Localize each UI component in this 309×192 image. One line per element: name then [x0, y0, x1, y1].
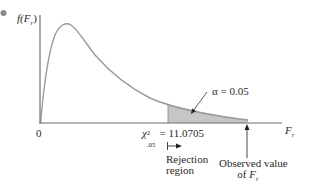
- origin-label: 0: [36, 127, 42, 139]
- observed-label-line2: of Fr: [219, 169, 277, 180]
- observed-arrow-up-icon: [245, 124, 250, 130]
- y-axis-label-close: ): [33, 12, 37, 24]
- density-curve: [41, 24, 249, 123]
- alpha-label: α = 0.05: [212, 85, 249, 97]
- y-axis-label: f(Fr): [17, 12, 37, 24]
- observed-label-sub: r: [256, 175, 259, 183]
- observed-label-var: F: [249, 168, 256, 180]
- rejection-region-label: Rejection region: [166, 154, 208, 176]
- critical-value-label: χ2.05 = 11.0705: [142, 127, 204, 139]
- observed-value-label: Observed value of Fr: [219, 158, 277, 180]
- bullet-icon: [1, 10, 7, 16]
- x-axis-label-main: F: [285, 124, 292, 136]
- alpha-pointer-line: [193, 92, 207, 111]
- critical-value-number: = 11.0705: [157, 127, 204, 139]
- rejection-arrow-right-icon: [176, 144, 182, 149]
- rejection-label-line2: region: [166, 165, 208, 176]
- x-axis-label: Fr: [285, 124, 294, 136]
- y-axis-label-main: f(F: [17, 12, 30, 24]
- x-axis-label-sub: r: [292, 131, 295, 139]
- f-distribution-figure: f(Fr) 0 Fr α = 0.05 χ2.05 = 11.0705 Reje…: [0, 0, 309, 192]
- observed-label-prefix: of: [237, 168, 249, 180]
